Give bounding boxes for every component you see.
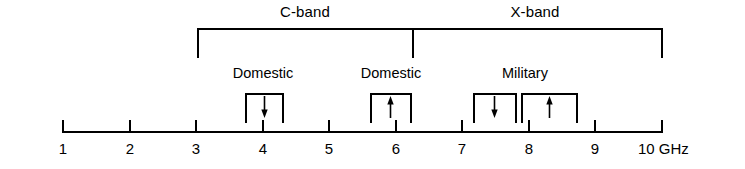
axis-tick-4 [262,120,264,132]
axis-tick-label-5: 5 [299,139,359,158]
axis-tick-2 [129,120,131,132]
band-label-c-band: C-band [245,2,365,21]
allocation-label-domestic-downlink: Domestic [203,64,323,82]
arrow-up-icon-domestic-uplink [386,96,395,118]
arrow-down-icon-domestic-downlink [260,96,269,118]
axis-tick-3 [195,120,197,132]
axis-tick-1 [62,120,64,132]
axis-tick-label-6: 6 [366,139,426,158]
band-label-x-band: X-band [475,2,595,21]
axis-tick-label-2: 2 [100,139,160,158]
axis-tick-7 [461,120,463,132]
allocation-label-domestic-uplink: Domestic [331,64,451,82]
frequency-band-allocation-diagram: C-band X-band Domestic Domestic Military… [0,0,745,169]
band-bracket-outer [197,28,663,58]
axis-tick-label-10: 10 GHz [638,139,689,158]
band-divider-c-x [412,28,414,58]
axis-tick-label-4: 4 [233,139,293,158]
arrow-up-icon-military-uplink [545,96,554,118]
axis-tick-label-3: 3 [166,139,226,158]
allocation-label-military-downlink: Military [465,64,585,82]
axis-tick-6 [395,120,397,132]
axis-tick-label-7: 7 [432,139,492,158]
axis-tick-9 [594,120,596,132]
axis-tick-label-8: 8 [499,139,559,158]
axis-tick-label-9: 9 [565,139,625,158]
arrow-down-icon-military-downlink [490,96,499,118]
frequency-axis-line [62,131,663,133]
axis-tick-label-1: 1 [33,139,93,158]
axis-tick-8 [528,120,530,132]
axis-tick-10 [661,120,663,132]
axis-tick-5 [328,120,330,132]
